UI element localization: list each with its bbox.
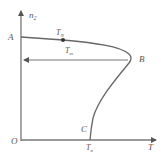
tn-label: TN — [56, 28, 64, 38]
phase-diagram: n2 A TN Tm B O C Tn T — [0, 0, 161, 155]
point-b-label: B — [139, 54, 145, 64]
phase-curve — [21, 37, 131, 140]
tm-label: Tm — [65, 46, 73, 56]
point-c-label: C — [81, 124, 88, 134]
x-axis-label: T — [148, 142, 154, 152]
tn-axis-label: Tn — [86, 143, 93, 153]
origin-label: O — [11, 136, 18, 146]
y-axis-label: n2 — [29, 10, 37, 21]
point-a-label: A — [7, 32, 14, 42]
tn-point-dot — [61, 38, 65, 42]
